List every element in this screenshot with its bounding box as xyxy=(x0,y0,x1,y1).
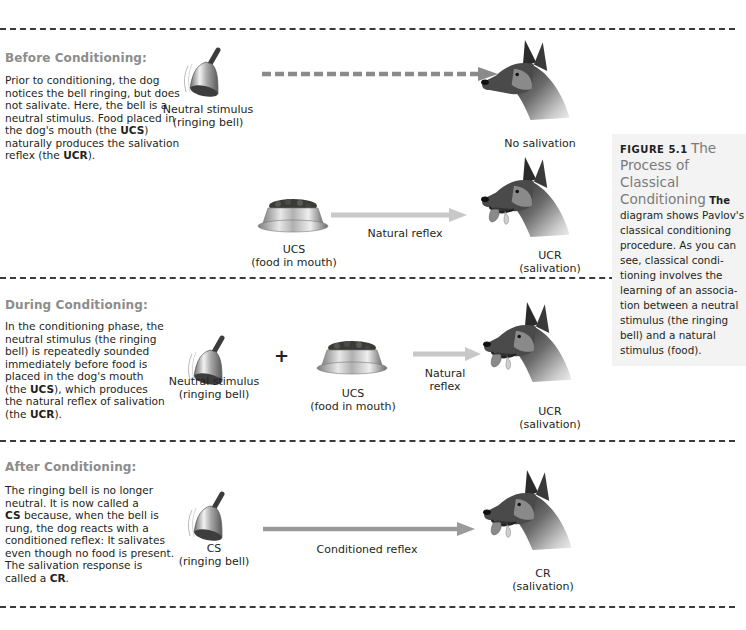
section-heading-before: Before Conditioning: xyxy=(5,51,147,65)
description-line: naturally produces the salivation xyxy=(5,137,215,150)
dog-salivating-icon xyxy=(482,302,572,382)
conditioned-reflex-arrow-icon xyxy=(263,522,483,536)
dog-head-icon xyxy=(480,40,570,120)
description-line: (the UCR). xyxy=(5,408,215,421)
section-heading-after: After Conditioning: xyxy=(5,460,136,474)
section-divider-bottom xyxy=(0,606,735,608)
no-salivation-label: No salivation xyxy=(490,137,590,150)
food-bowl-icon xyxy=(317,340,389,376)
description-line: notices the bell ringing, but does xyxy=(5,87,215,100)
description-line: CS because, when the bell is xyxy=(5,509,215,522)
caption-line: learning of an associa- xyxy=(620,284,738,296)
ucr-label: UCR(salivation) xyxy=(500,249,600,275)
natural-reflex-arrow-icon xyxy=(331,208,471,222)
section-divider-2 xyxy=(0,440,735,442)
description-during: In the conditioning phase, theneutral st… xyxy=(5,320,215,420)
caption-line: bell) and a natural xyxy=(620,329,716,341)
caption-line: tioning involves the xyxy=(620,269,722,281)
ucr-label: UCR(salivation) xyxy=(500,405,600,431)
natural-reflex-label: Naturalreflex xyxy=(415,367,475,393)
figure-number: FIGURE 5.1 xyxy=(620,144,688,155)
caption-line: see, classical condi- xyxy=(620,254,724,266)
description-line: reflex (the UCR). xyxy=(5,149,215,162)
description-line: bell) is repeatedly sounded xyxy=(5,345,215,358)
neutral-stimulus-label: Neutral stimulus(ringing bell) xyxy=(166,375,262,401)
description-line: immediately before food is xyxy=(5,358,215,371)
bell-icon xyxy=(192,492,232,542)
section-divider-top xyxy=(0,28,735,30)
food-bowl-icon xyxy=(258,198,330,234)
ucs-label: UCS(food in mouth) xyxy=(303,387,403,413)
description-line: called a CR. xyxy=(5,572,215,585)
dog-salivating-icon xyxy=(480,157,570,237)
natural-reflex-arrow-icon xyxy=(413,347,483,361)
dashed-arrow-icon xyxy=(262,67,502,81)
caption-line: classical conditioning xyxy=(620,224,731,236)
description-line: Prior to conditioning, the dog xyxy=(5,74,215,87)
figure-title-line-3: Conditioning xyxy=(620,191,706,207)
cr-label: CR(salivation) xyxy=(493,567,593,593)
caption-line: tion between a neutral xyxy=(620,299,738,311)
description-line: The ringing bell is no longer xyxy=(5,484,215,497)
figure-title-word-1: The xyxy=(691,140,716,156)
neutral-stimulus-label: Neutral stimulus(ringing bell) xyxy=(160,103,256,129)
description-line: neutral. It is now called a xyxy=(5,497,215,510)
description-line: rung, the dog reacts with a xyxy=(5,522,215,535)
cs-label: CS(ringing bell) xyxy=(166,542,262,568)
caption-line: stimulus (the ringing xyxy=(620,314,728,326)
section-heading-during: During Conditioning: xyxy=(5,298,148,312)
conditioned-reflex-label: Conditioned reflex xyxy=(312,543,422,556)
plus-sign: + xyxy=(274,345,289,366)
caption-line: procedure. As you can xyxy=(620,239,736,251)
caption-line: diagram shows Pavlov's xyxy=(620,209,744,221)
natural-reflex-label: Natural reflex xyxy=(360,227,450,240)
description-line: neutral stimulus (the ringing xyxy=(5,333,215,346)
description-after: The ringing bell is no longerneutral. It… xyxy=(5,484,215,584)
ucs-label: UCS(food in mouth) xyxy=(244,243,344,269)
figure-caption: FIGURE 5.1 The Process of Classical Cond… xyxy=(612,134,746,366)
dog-salivating-icon xyxy=(482,470,572,550)
description-line: In the conditioning phase, the xyxy=(5,320,215,333)
bell-icon xyxy=(188,48,228,98)
figure-title-line-2: Process of Classical xyxy=(620,157,689,190)
caption-lead: The xyxy=(709,195,730,206)
caption-line: stimulus (food). xyxy=(620,344,702,356)
